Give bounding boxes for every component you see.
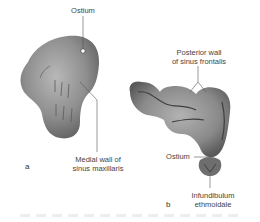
label-posterior-wall-line1: Posterior wall — [170, 48, 228, 57]
label-medial-wall-line2: sinus maxillaris — [70, 164, 126, 173]
label-infundibulum-line2: ethmoidale — [192, 200, 234, 209]
panel-letter-a: a — [25, 162, 29, 171]
label-posterior-wall-line2: of sinus frontalis — [168, 57, 230, 66]
cutoff-caption-line — [20, 214, 240, 217]
maxillary-sinus-cast — [21, 36, 100, 139]
panel-letter-b: b — [166, 200, 170, 209]
label-medial-wall-line1: Medial wall of — [72, 155, 124, 164]
label-ostium-a: Ostium — [67, 6, 99, 15]
anatomical-figure: Ostium Medial wall of sinus maxillaris a… — [0, 0, 260, 222]
frontal-sinus-cast — [130, 81, 231, 176]
sinus-casts-illustration — [0, 0, 260, 222]
label-infundibulum-line1: Infundibulum — [190, 191, 236, 200]
label-ostium-b: Ostium — [164, 152, 192, 161]
